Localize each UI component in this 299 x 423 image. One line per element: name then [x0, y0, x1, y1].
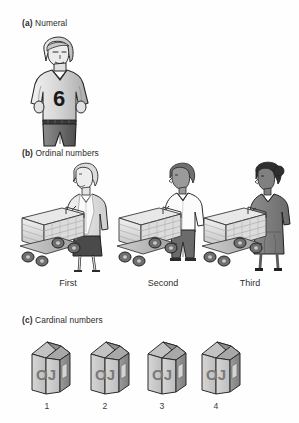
- ordinal-caption-second: Second: [130, 278, 196, 288]
- panel-c-tag: (c): [22, 315, 33, 325]
- carton-label: OJ: [36, 366, 56, 383]
- oj-carton-3: OJ: [143, 336, 195, 398]
- cardinal-caption-4: 4: [200, 401, 232, 411]
- panel-c-label: (c) Cardinal numbers: [22, 315, 103, 325]
- panel-a-tag: (a): [22, 18, 33, 28]
- ordinal-caption-first: First: [38, 278, 98, 288]
- cardinal-caption-3: 3: [146, 401, 178, 411]
- oj-carton-4: OJ: [197, 336, 249, 398]
- carton-label: OJ: [206, 366, 226, 383]
- oj-carton-1: OJ: [27, 336, 79, 398]
- panel-b-label: (b) Ordinal numbers: [22, 148, 99, 158]
- figure-root: (a) Numeral: [0, 0, 299, 423]
- panel-b-tag: (b): [22, 148, 33, 158]
- cardinal-caption-1: 1: [31, 401, 63, 411]
- panel-a: (a) Numeral: [22, 18, 67, 28]
- oj-carton-2: OJ: [86, 336, 138, 398]
- cardinal-caption-2: 2: [89, 401, 121, 411]
- carton-label: OJ: [152, 366, 172, 383]
- numeral-player-illustration: 6: [24, 34, 94, 134]
- panel-c: (c) Cardinal numbers: [22, 315, 103, 325]
- ordinal-caption-third: Third: [222, 278, 278, 288]
- panel-b: (b) Ordinal numbers: [22, 148, 99, 158]
- carton-label: OJ: [95, 366, 115, 383]
- panel-b-title: Ordinal numbers: [35, 148, 98, 158]
- jersey-number: 6: [53, 86, 65, 111]
- shopper-group-first: [18, 162, 118, 272]
- panel-a-label: (a) Numeral: [22, 18, 67, 28]
- shopper-group-third: [200, 162, 299, 272]
- panel-a-title: Numeral: [35, 18, 67, 28]
- panel-c-title: Cardinal numbers: [35, 315, 103, 325]
